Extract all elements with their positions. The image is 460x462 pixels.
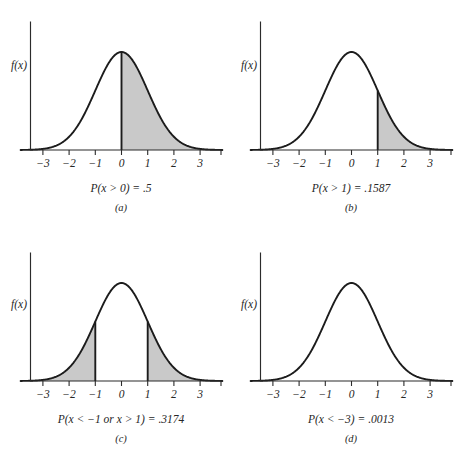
x-axis-tick-label: −3 <box>36 157 50 169</box>
shaded-probability-area <box>148 322 223 381</box>
x-axis-tick-label: −1 <box>319 157 333 169</box>
x-axis-tick-label: −3 <box>266 157 280 169</box>
panel-caption: P(x > 1) = .1587 <box>311 182 392 195</box>
panel-letter: (b) <box>345 202 358 214</box>
x-axis-tick-label: 3 <box>426 157 433 169</box>
chart-panel-a: −3−2−10123 f(x) P(x > 0) = .5 (a) <box>0 0 230 231</box>
x-tick-labels-d: −3−2−10123 <box>266 388 433 400</box>
x-axis-tick-label: 2 <box>171 388 177 400</box>
chart-panel-d: −3−2−10123 f(x) P(x < −3) = .0013 (d) <box>230 231 460 462</box>
shaded-probability-area <box>378 91 453 150</box>
x-axis-tick-label: 1 <box>145 157 151 169</box>
x-axis-tick-label: 1 <box>375 157 381 169</box>
x-axis-tick-label: 2 <box>171 157 177 169</box>
x-axis-tick-label: −2 <box>62 157 76 169</box>
shaded-areas-b <box>378 91 453 150</box>
panel-caption: P(x < −1 or x > 1) = .3174 <box>57 413 185 426</box>
x-axis-tick-label: 3 <box>426 388 433 400</box>
x-axis-tick-label: 2 <box>401 157 407 169</box>
y-axis-label: f(x) <box>11 59 27 72</box>
axes <box>261 253 452 381</box>
plot-d: −3−2−10123 f(x) P(x < −3) = .0013 (d) <box>230 231 460 462</box>
shaded-areas-c <box>21 322 223 381</box>
x-axis-tick-label: 0 <box>119 388 125 400</box>
panel-caption: P(x < −3) = .0013 <box>307 413 394 426</box>
x-ticks-c <box>43 381 221 386</box>
x-axis-tick-label: 3 <box>196 157 203 169</box>
divider-lines-c <box>95 322 147 381</box>
chart-panel-b: −3−2−10123 f(x) P(x > 1) = .1587 (b) <box>230 0 460 231</box>
x-axis-tick-label: −3 <box>266 388 280 400</box>
x-axis-tick-label: −2 <box>292 388 306 400</box>
panel-letter: (d) <box>345 433 358 445</box>
axes <box>31 253 222 381</box>
panel-letter: (c) <box>115 433 127 445</box>
x-axis-tick-label: 3 <box>196 388 203 400</box>
x-axis-tick-label: −1 <box>89 388 103 400</box>
x-axis-tick-label: 2 <box>401 388 407 400</box>
x-axis-tick-label: −1 <box>319 388 333 400</box>
y-axis-label: f(x) <box>11 298 27 311</box>
axes <box>261 22 452 150</box>
x-ticks-b <box>273 150 451 155</box>
plot-b: −3−2−10123 f(x) P(x > 1) = .1587 (b) <box>230 0 460 231</box>
normal-curve <box>21 283 223 381</box>
x-axis-tick-label: −3 <box>36 388 50 400</box>
chart-panel-c: −3−2−10123 f(x) P(x < −1 or x > 1) = .31… <box>0 231 230 462</box>
x-axis-tick-label: 0 <box>349 388 355 400</box>
panel-caption: P(x > 0) = .5 <box>89 182 151 195</box>
normal-distribution-figure: −3−2−10123 f(x) P(x > 0) = .5 (a) −3−2−1… <box>0 0 460 462</box>
y-axis-label: f(x) <box>241 298 257 311</box>
x-tick-labels-a: −3−2−10123 <box>36 157 203 169</box>
x-axis-tick-label: 1 <box>145 388 151 400</box>
x-axis-tick-label: 0 <box>119 157 125 169</box>
x-axis-tick-label: 0 <box>349 157 355 169</box>
x-ticks-a <box>43 150 221 155</box>
x-ticks-d <box>273 381 451 386</box>
x-axis-tick-label: −2 <box>62 388 76 400</box>
plot-a: −3−2−10123 f(x) P(x > 0) = .5 (a) <box>0 0 230 231</box>
normal-curve <box>251 52 453 150</box>
shaded-probability-area <box>21 322 96 381</box>
x-axis-tick-label: 1 <box>375 388 381 400</box>
x-axis-tick-label: −2 <box>292 157 306 169</box>
plot-c: −3−2−10123 f(x) P(x < −1 or x > 1) = .31… <box>0 231 230 462</box>
panel-letter: (a) <box>115 202 128 214</box>
y-axis-label: f(x) <box>241 59 257 72</box>
x-tick-labels-b: −3−2−10123 <box>266 157 433 169</box>
x-tick-labels-c: −3−2−10123 <box>36 388 203 400</box>
x-axis-tick-label: −1 <box>89 157 103 169</box>
normal-curve <box>251 283 453 381</box>
